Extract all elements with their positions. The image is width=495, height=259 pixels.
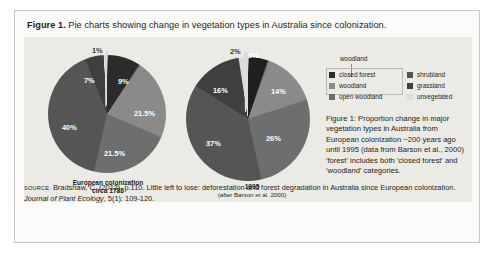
figure-description: Figure 1: Proportion change in major veg… bbox=[326, 114, 476, 176]
figure-title-text: Pie charts showing change in vegetation … bbox=[66, 20, 387, 30]
legend-item-shrubland[interactable]: shrubland bbox=[407, 71, 485, 78]
legend-label-shrubland: shrubland bbox=[417, 71, 445, 78]
description-line-5: 'forest' includes both 'closed forest' a… bbox=[326, 156, 476, 166]
legend-item-woodland[interactable]: woodland bbox=[329, 82, 407, 89]
source-text-1: Bradshaw, C. (2012). p.110. Little left … bbox=[51, 183, 456, 192]
legend: closed forest shrubland woodland grassla… bbox=[329, 69, 485, 102]
pie-1995-disc bbox=[186, 57, 310, 181]
pie-1788-label-woodland: 21.5% bbox=[134, 109, 155, 118]
figure-label: Figure 1. bbox=[27, 20, 66, 30]
legend-label-woodland: woodland bbox=[339, 82, 366, 89]
source-citation: SOURCE: Bradshaw, C. (2012). p.110. Litt… bbox=[24, 183, 472, 204]
pie-1995-label-shrubland: 37% bbox=[206, 139, 221, 148]
legend-callout-label: woodland bbox=[340, 55, 367, 62]
legend-item-unvegetated[interactable]: unvegetated bbox=[407, 93, 485, 100]
description-line-2: vegetation types in Australia from bbox=[326, 124, 476, 134]
pie-1788-label-open-woodland: 21.5% bbox=[104, 149, 125, 158]
description-line-3: European colonization ~200 years ago bbox=[326, 135, 476, 145]
legend-swatch-unvegetated bbox=[407, 94, 413, 100]
description-line-1: Figure 1: Proportion change in major bbox=[326, 114, 476, 124]
pie-chart-1995: 5% 14% 26% 37% 16% 2% 1995 (after Barson… bbox=[180, 49, 320, 199]
pie-1995-label-closed-forest: 5% bbox=[248, 51, 259, 60]
figure-container: Figure 1. Pie charts showing change in v… bbox=[14, 10, 480, 243]
pie-1995-label-grassland: 16% bbox=[213, 86, 228, 95]
source-label: SOURCE: bbox=[24, 185, 51, 191]
legend-label-closed-forest: closed forest bbox=[339, 71, 375, 78]
pie-1788-label-grassland: 7% bbox=[84, 76, 95, 85]
pie-chart-1788: 9% 21.5% 21.5% 40% 7% 1% European coloni… bbox=[42, 49, 172, 199]
figure-title: Figure 1. Pie charts showing change in v… bbox=[27, 19, 477, 31]
pie-1788-label-unvegetated: 1% bbox=[92, 46, 103, 55]
pie-1788-label-closed-forest: 9% bbox=[118, 77, 129, 86]
legend-label-open-woodland: open woodland bbox=[339, 93, 382, 100]
legend-swatch-shrubland bbox=[407, 72, 413, 78]
figure-page: Figure 1. Pie charts showing change in v… bbox=[0, 0, 495, 259]
legend-swatch-woodland bbox=[329, 83, 335, 89]
legend-item-closed-forest[interactable]: closed forest bbox=[329, 71, 407, 78]
pie-1995-label-unvegetated: 2% bbox=[230, 47, 241, 56]
pie-1995-label-woodland: 14% bbox=[271, 87, 286, 96]
pie-1995-label-open-woodland: 26% bbox=[266, 134, 281, 143]
pie-1788-label-shrubland: 40% bbox=[62, 123, 77, 132]
description-line-6: 'woodland' categories. bbox=[326, 166, 476, 176]
legend-label-unvegetated: unvegetated bbox=[417, 93, 452, 100]
chart-panel: 9% 21.5% 21.5% 40% 7% 1% European coloni… bbox=[24, 37, 472, 202]
legend-item-grassland[interactable]: grassland bbox=[407, 82, 485, 89]
description-line-4: until 1995 (data from Barson et al., 200… bbox=[326, 145, 476, 155]
legend-label-grassland: grassland bbox=[417, 82, 445, 89]
legend-swatch-grassland bbox=[407, 83, 413, 89]
legend-swatch-open-woodland bbox=[329, 94, 335, 100]
legend-swatch-closed-forest bbox=[329, 72, 335, 78]
source-journal: Journal of Plant Ecology bbox=[24, 194, 104, 203]
source-text-2: , 5(1): 109-120. bbox=[104, 194, 155, 203]
legend-item-open-woodland[interactable]: open woodland bbox=[329, 93, 407, 100]
